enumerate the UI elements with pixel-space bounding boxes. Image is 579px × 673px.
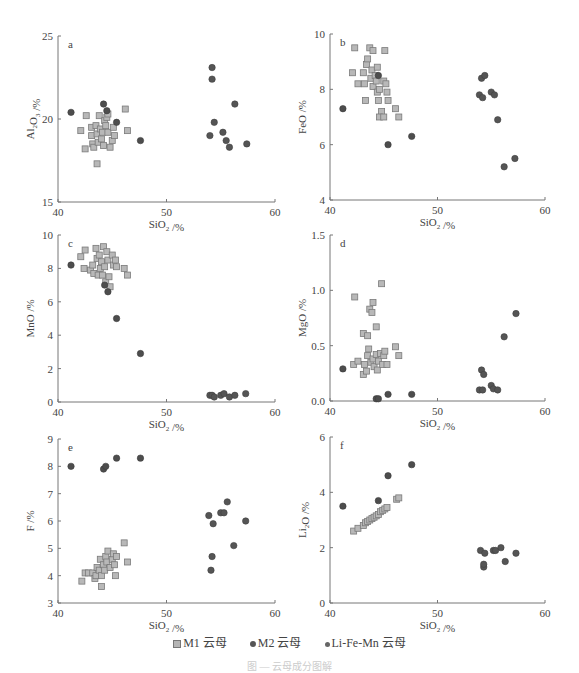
data-point <box>208 567 214 573</box>
y-tick-label: 1.5 <box>311 229 325 241</box>
data-point <box>98 136 104 142</box>
figure-caption: 图 — 云母成分图解 <box>0 658 579 673</box>
data-point <box>102 264 108 270</box>
data-point <box>382 348 388 354</box>
y-axis-label: MgO /% <box>296 299 308 337</box>
legend-item-m2: M2 云母 <box>250 636 302 650</box>
data-point <box>361 361 367 367</box>
data-point <box>82 247 88 253</box>
data-point <box>121 540 127 546</box>
x-tick-label: 50 <box>432 204 444 216</box>
x-tick-label: 60 <box>540 405 552 417</box>
data-point <box>106 274 112 280</box>
data-point <box>79 578 85 584</box>
data-point <box>409 133 415 139</box>
data-point <box>243 390 249 396</box>
data-point <box>384 505 390 511</box>
data-point <box>100 101 106 107</box>
data-point <box>113 455 119 461</box>
data-point <box>124 128 130 134</box>
legend-item-m1: M1 云母 <box>173 636 227 650</box>
x-tick-label: 50 <box>432 607 444 619</box>
data-point <box>68 262 74 268</box>
y-tick-label: 20 <box>42 113 54 125</box>
panel-c: 0246810405060SiO2 /%MnO /%c <box>24 229 281 433</box>
y-tick-label: 7 <box>48 488 54 500</box>
series-2 <box>340 461 415 509</box>
y-tick-label: 8 <box>320 83 326 95</box>
y-tick-label: 2 <box>48 363 54 375</box>
x-tick-label: 40 <box>53 206 65 218</box>
data-point <box>370 300 376 306</box>
data-point <box>352 45 358 51</box>
data-point <box>379 108 385 114</box>
panel-label: b <box>340 36 346 48</box>
data-point <box>396 114 402 120</box>
data-point <box>384 361 390 367</box>
data-point <box>396 353 402 359</box>
y-axis-label: Al2O3 /% <box>24 99 42 140</box>
y-tick-label: 5 <box>48 542 54 554</box>
data-point <box>482 72 488 78</box>
data-point <box>137 350 143 356</box>
data-point <box>211 394 217 400</box>
x-axis-label: SiO2 /% <box>149 218 185 233</box>
data-point <box>355 358 361 364</box>
circle-marker-icon <box>250 641 256 647</box>
data-point <box>111 562 117 568</box>
y-tick-label: 6 <box>320 431 326 443</box>
data-point <box>374 367 380 373</box>
data-point <box>366 346 372 352</box>
series-1 <box>78 106 131 167</box>
data-point <box>409 461 415 467</box>
data-point <box>393 106 399 112</box>
data-point <box>501 334 507 340</box>
data-point <box>385 141 391 147</box>
legend-item-li-fe-mn: Li-Fe-Mn 云母 <box>325 636 406 650</box>
data-point <box>370 84 376 90</box>
data-point <box>122 106 128 112</box>
data-point <box>369 309 375 315</box>
legend: M1 云母 M2 云母 Li-Fe-Mn 云母 <box>0 633 579 651</box>
panel-f: 0246405060SiO2 /%Li2O /%f <box>296 431 551 634</box>
y-tick-label: 8 <box>48 460 54 472</box>
data-point <box>113 315 119 321</box>
series-2 <box>68 455 144 472</box>
data-point <box>383 81 389 87</box>
data-point <box>362 97 368 103</box>
data-point <box>101 143 107 149</box>
data-point <box>512 155 518 161</box>
data-point <box>78 254 84 260</box>
data-point <box>68 109 74 115</box>
data-point <box>103 463 109 469</box>
x-tick-label: 50 <box>432 405 444 417</box>
data-point <box>207 132 213 138</box>
x-tick-label: 40 <box>53 406 65 418</box>
y-tick-label: 2 <box>320 542 326 554</box>
data-point <box>137 455 143 461</box>
y-tick-label: 4 <box>48 329 54 341</box>
data-point <box>82 146 88 152</box>
data-point <box>93 245 99 251</box>
data-point <box>226 144 232 150</box>
data-point <box>210 521 216 527</box>
data-point <box>375 97 381 103</box>
data-point <box>104 108 110 114</box>
data-point <box>385 391 391 397</box>
series-1 <box>79 540 131 590</box>
data-point <box>365 56 371 62</box>
series-3 <box>477 544 519 570</box>
series-1 <box>351 281 402 378</box>
data-point <box>124 559 130 565</box>
panel-label: a <box>68 38 73 50</box>
data-point <box>114 554 120 560</box>
data-point <box>374 64 380 70</box>
y-tick-label: 1.0 <box>311 284 325 296</box>
panel-e: 3456789405060SiO2 /%F /%e <box>24 433 281 634</box>
data-point <box>373 324 379 330</box>
x-axis-label: SiO2 /% <box>420 619 456 634</box>
data-point <box>113 573 119 579</box>
panel-a: 152025405060SiO2 /%Al2O3 /%a <box>24 30 281 233</box>
data-point <box>124 272 130 278</box>
